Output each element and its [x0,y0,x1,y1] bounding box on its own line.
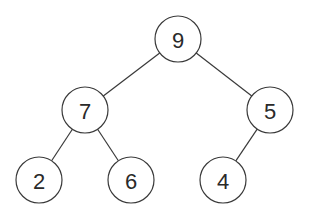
node-label: 2 [33,169,45,194]
tree-edge [103,53,159,96]
tree-edge [98,129,119,161]
tree-node: 5 [247,87,293,133]
node-label: 6 [125,169,137,194]
node-label: 5 [264,99,276,124]
tree-node: 4 [200,157,246,203]
node-label: 9 [172,28,184,53]
node-label: 7 [79,99,91,124]
tree-edge [236,129,257,161]
node-label: 4 [217,169,229,194]
tree-node: 7 [62,87,108,133]
binary-tree-diagram: 975264 [0,0,314,221]
tree-node: 6 [108,157,154,203]
tree-edge [196,53,252,96]
tree-node: 2 [16,157,62,203]
tree-node: 9 [155,16,201,62]
tree-nodes: 975264 [16,16,293,203]
tree-edge [52,129,73,161]
